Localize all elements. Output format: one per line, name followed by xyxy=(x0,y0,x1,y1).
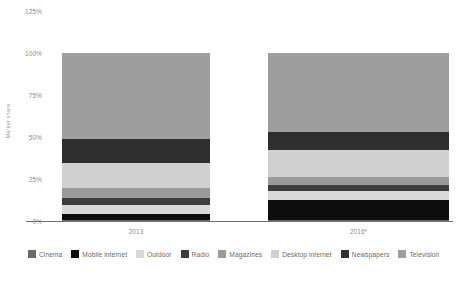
legend-item-label: Television xyxy=(409,251,439,258)
chart-legend: CinemaMobile internetOutdoorRadioMagazin… xyxy=(28,250,453,258)
legend-item-label: Outdoor xyxy=(147,251,172,258)
y-axis-tick-125: 125% xyxy=(0,8,42,15)
legend-swatch-icon xyxy=(136,250,144,258)
bar-segment-magazines[interactable] xyxy=(62,188,210,198)
bar-segment-magazines[interactable] xyxy=(268,177,449,185)
bar-segment-cinema[interactable] xyxy=(62,220,210,221)
bar-segment-newspapers[interactable] xyxy=(268,132,449,150)
y-axis-tick-75: 75% xyxy=(0,92,42,99)
legend-swatch-icon xyxy=(218,250,226,258)
legend-item-label: Cinema xyxy=(39,251,62,258)
legend-swatch-icon xyxy=(28,250,36,258)
legend-swatch-icon xyxy=(181,250,189,258)
bar-segment-cinema[interactable] xyxy=(268,220,449,221)
legend-item-outdoor[interactable]: Outdoor xyxy=(136,250,172,258)
bar-segment-radio[interactable] xyxy=(62,198,210,205)
y-axis-tick-100: 100% xyxy=(0,50,42,57)
legend-item-television[interactable]: Television xyxy=(398,250,439,258)
legend-item-label: Magazines xyxy=(229,251,262,258)
bar-segment-outdoor[interactable] xyxy=(62,205,210,214)
legend-item-label: Radio xyxy=(192,251,210,258)
bar-segment-newspapers[interactable] xyxy=(62,139,210,163)
legend-swatch-icon xyxy=(398,250,406,258)
legend-item-label: Desktop internet xyxy=(282,251,332,258)
legend-swatch-icon xyxy=(271,250,279,258)
x-axis-baseline xyxy=(26,221,453,222)
legend-item-newspapers[interactable]: Newspapers xyxy=(341,250,390,258)
legend-item-label: Mobile internet xyxy=(82,251,127,258)
legend-item-desktop-internet[interactable]: Desktop internet xyxy=(271,250,332,258)
y-axis-tick-25: 25% xyxy=(0,176,42,183)
legend-item-radio[interactable]: Radio xyxy=(181,250,210,258)
x-axis-label-0: 2013 xyxy=(62,228,210,235)
y-axis-tick-50: 50% xyxy=(0,134,42,141)
legend-item-mobile-internet[interactable]: Mobile internet xyxy=(71,250,127,258)
bar-segment-mobile-internet[interactable] xyxy=(268,200,449,220)
legend-swatch-icon xyxy=(341,250,349,258)
x-axis-label-1: 2016* xyxy=(268,228,449,235)
bar-2016[interactable] xyxy=(268,53,449,221)
legend-item-magazines[interactable]: Magazines xyxy=(218,250,262,258)
bar-segment-desktop-internet[interactable] xyxy=(62,163,210,188)
stacked-bar-chart: Market share 0%25%50%75%100%125% 2013201… xyxy=(0,0,459,281)
bar-segment-desktop-internet[interactable] xyxy=(268,150,449,177)
bar-segment-television[interactable] xyxy=(268,53,449,132)
bar-segment-outdoor[interactable] xyxy=(268,191,449,200)
bar-segment-television[interactable] xyxy=(62,53,210,139)
legend-swatch-icon xyxy=(71,250,79,258)
legend-item-label: Newspapers xyxy=(352,251,390,258)
bar-2013[interactable] xyxy=(62,53,210,221)
legend-item-cinema[interactable]: Cinema xyxy=(28,250,62,258)
